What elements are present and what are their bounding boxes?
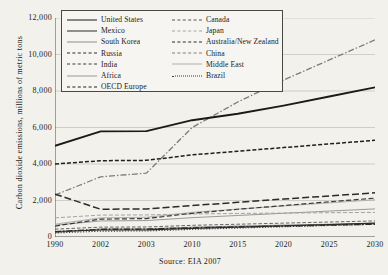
legend-item: Brazil [172, 70, 279, 81]
legend-swatch [172, 26, 202, 35]
legend-label: OECD Europe [101, 82, 147, 91]
series-line [55, 140, 375, 164]
legend-item: Japan [172, 25, 279, 36]
legend-item: United States [67, 14, 147, 25]
x-tick-label: 2015 [218, 240, 258, 249]
legend-swatch [67, 60, 97, 69]
legend-item: OECD Europe [67, 81, 147, 92]
legend-item: Middle East [172, 59, 279, 70]
y-tick-label: 8,000 [6, 86, 52, 95]
legend-swatch [67, 82, 97, 91]
legend-swatch [172, 60, 202, 69]
series-line [55, 193, 375, 209]
x-tick-label: 2020 [264, 240, 304, 249]
legend-swatch [67, 37, 97, 46]
legend-item: China [172, 48, 279, 59]
legend-label: Brazil [206, 71, 225, 80]
x-tick-label: 1990 [35, 240, 75, 249]
legend-swatch [67, 71, 97, 80]
x-tick-label: 2002 [81, 240, 121, 249]
source-caption: Source: EIA 2007 [0, 257, 380, 266]
series-line [55, 87, 375, 145]
legend-swatch [172, 49, 202, 58]
legend-label: Mexico [101, 26, 125, 35]
legend-item: India [67, 59, 147, 70]
x-tick-label: 2030 [355, 240, 388, 249]
legend-item: Africa [67, 70, 147, 81]
legend-swatch [67, 49, 97, 58]
legend-item: Russia [67, 48, 147, 59]
legend-item: Mexico [67, 25, 147, 36]
legend-swatch [67, 26, 97, 35]
legend-label: South Korea [101, 37, 140, 46]
legend-item: Australia/New Zealand [172, 36, 279, 47]
legend-label: Russia [101, 49, 122, 58]
legend-label: Australia/New Zealand [206, 37, 279, 46]
legend-swatch [172, 15, 202, 24]
x-axis-tick-labels: 19902002200320102015202020252030 [0, 240, 380, 254]
legend-label: Africa [101, 71, 121, 80]
legend-label: Middle East [206, 60, 244, 69]
y-tick-label: 4,000 [6, 159, 52, 168]
legend-swatch [67, 15, 97, 24]
legend-label: China [206, 49, 225, 58]
y-axis-tick-labels: 02,0004,0006,0008,00010,00012,000 [4, 0, 52, 275]
x-tick-label: 2010 [172, 240, 212, 249]
legend-label: United States [101, 15, 143, 24]
legend-label: Canada [206, 15, 229, 24]
legend-item: South Korea [67, 36, 147, 47]
x-tick-label: 2025 [309, 240, 349, 249]
legend-column-right: CanadaJapanAustralia/New ZealandChinaMid… [172, 14, 279, 81]
legend-label: India [101, 60, 117, 69]
y-tick-label: 12,000 [6, 13, 52, 22]
y-tick-label: 2,000 [6, 196, 52, 205]
y-tick-label: 6,000 [6, 123, 52, 132]
chart-legend: United StatesMexicoSouth KoreaRussiaIndi… [61, 10, 283, 92]
y-tick-label: 10,000 [6, 50, 52, 59]
legend-column-left: United StatesMexicoSouth KoreaRussiaIndi… [67, 14, 147, 92]
legend-item: Canada [172, 14, 279, 25]
legend-label: Japan [206, 26, 224, 35]
legend-swatch [172, 71, 202, 80]
legend-swatch [172, 37, 202, 46]
x-tick-label: 2003 [126, 240, 166, 249]
